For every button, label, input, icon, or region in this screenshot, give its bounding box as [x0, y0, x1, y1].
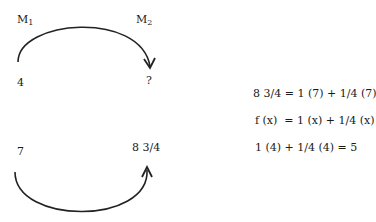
machine-m2-base: M — [136, 13, 147, 26]
equation-3: 1 (4) + 1/4 (4) = 5 — [255, 142, 357, 153]
machine-m1-base: M — [17, 13, 28, 26]
machine-label-m2: M2 — [136, 14, 152, 27]
machine-label-m1: M1 — [17, 14, 33, 27]
machine-m2-subscript: 2 — [147, 18, 152, 27]
bottom-output-value: 8 3/4 — [132, 142, 160, 153]
bottom-arc-arrow — [15, 170, 147, 212]
machine-m1-subscript: 1 — [28, 18, 33, 27]
equation-2: f (x) = 1 (x) + 1/4 (x) — [255, 115, 375, 126]
top-arc-arrow — [18, 27, 150, 66]
equation-1: 8 3/4 = 1 (7) + 1/4 (7) — [253, 88, 376, 99]
bottom-input-value: 7 — [17, 146, 24, 157]
top-input-value: 4 — [17, 77, 24, 88]
top-output-unknown: ? — [146, 75, 152, 86]
